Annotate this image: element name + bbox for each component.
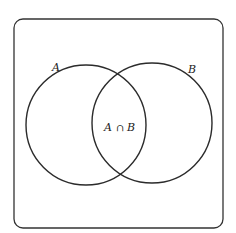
intersection-label: A ∩ B: [103, 121, 135, 134]
set-b-label: B: [187, 63, 196, 76]
intersection-left: A: [103, 121, 112, 134]
venn-diagram: A B A ∩ B: [0, 0, 236, 233]
set-a-label: A: [51, 61, 60, 74]
intersection-right: B: [126, 121, 135, 134]
intersection-op: ∩: [116, 122, 124, 133]
